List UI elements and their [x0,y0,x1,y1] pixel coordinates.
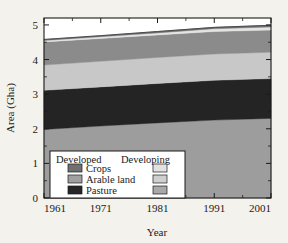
y-tick-label: 0 [33,192,39,204]
x-tick-label: 1981 [147,202,169,214]
legend-label-crops: Crops [86,163,111,174]
y-tick-label: 4 [33,54,39,66]
legend-swatch-developed-pasture[interactable] [68,186,82,194]
x-axis-title: Year [147,226,168,238]
chart-legend[interactable]: Developed Developing CropsArable landPas… [50,151,185,198]
legend-swatch-developed-arable-land[interactable] [68,175,82,183]
x-tick-label: 2001 [249,202,271,214]
x-tick-label: 1971 [90,202,112,214]
legend-swatch-developing-arable-land[interactable] [153,175,167,183]
legend-swatch-developing-pasture[interactable] [153,186,167,194]
y-tick-label: 1 [33,157,39,169]
x-tick-label: 1961 [44,202,66,214]
y-tick-label: 3 [33,88,39,100]
legend-label-arable-land: Arable land [86,174,136,185]
chart-figure: 012345 19611971198119912001 Area (Gha) Y… [0,0,288,243]
area-chart-svg: 012345 19611971198119912001 Area (Gha) Y… [0,0,288,243]
y-tick-label: 2 [33,123,39,135]
legend-swatch-developing-crops[interactable] [153,164,167,172]
legend-label-pasture: Pasture [86,185,117,196]
legend-swatch-developed-crops[interactable] [68,164,82,172]
x-tick-label: 1991 [203,202,225,214]
y-axis-title: Area (Gha) [4,83,17,133]
y-tick-label: 5 [33,19,39,31]
legend-header-developing: Developing [121,154,171,165]
